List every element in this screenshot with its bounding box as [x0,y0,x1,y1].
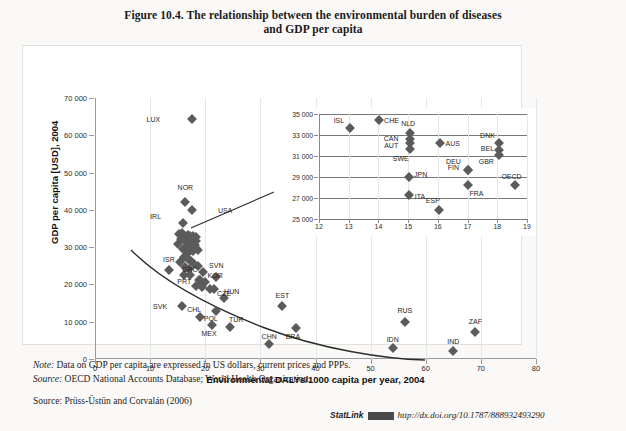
x-tick-label: 50 [366,364,374,373]
inset-data-point [434,205,444,215]
inset-y-tick-label: 25 000 [292,216,313,223]
figure-title-line2: and GDP per capita [263,23,362,35]
inset-data-point-label: JPN [414,171,427,178]
inset-data-point-label: GBR [479,157,494,164]
note-line: Note: Data on GDP per capita are express… [33,360,350,370]
statlink-label: StatLink [330,410,364,420]
inset-data-point [463,165,473,175]
inset-gridline-x [497,114,498,219]
inset-y-axis-line [319,114,320,219]
inset-data-point [404,172,414,182]
inset-y-tick [314,219,318,220]
statlink[interactable]: StatLinkhttp://dx.doi.org/10.1787/888932… [330,410,544,420]
inset-data-point-label: ISL [334,117,345,124]
chart-panel: GDP per capita [USD], 2004 Environmental… [22,45,522,345]
inset-data-point [435,138,445,148]
inset-gridline-x [378,114,379,219]
source-label: Source: [33,374,62,384]
inset-x-tick-label: 19 [523,223,531,230]
inset-data-point [374,115,384,125]
inset-data-point-label: CAN [384,134,399,141]
note-text: Data on GDP per capita are expressed in … [54,360,350,370]
inset-x-tick-label: 17 [464,223,472,230]
inset-y-tick-label: 31 000 [292,153,313,160]
inset-gridline-y [319,114,527,115]
inset-data-point-label: BEL [481,145,494,152]
inset-data-point [510,180,520,190]
inset-data-point-label: ESP [426,197,440,204]
inset-data-point-label: OECD [501,172,521,179]
inset-y-tick-label: 35 000 [292,111,313,118]
x-tick-label: 70 [477,364,485,373]
inset-x-tick-label: 14 [375,223,383,230]
statlink-barcode-icon [368,412,394,420]
gridline-x [536,98,537,359]
inset-x-tick-label: 15 [404,223,412,230]
inset-x-tick-label: 13 [345,223,353,230]
figure-title-line1: Figure 10.4. The relationship between th… [124,9,501,21]
inset-gridline-y [319,135,527,136]
source-text: OECD National Accounts Database; World H… [62,374,310,384]
statlink-url[interactable]: http://dx.doi.org/10.1787/888932493290 [398,410,545,420]
inset-plot-area: 25 00027 00029 00031 00033 00035 000 121… [319,114,527,219]
source2-text: Prüss-Üstün and Corvalán (2006) [62,396,192,406]
inset-y-tick [314,114,318,115]
inset-chart: 25 00027 00029 00031 00033 00035 000 121… [274,108,536,236]
inset-data-point-label: FRA [469,190,483,197]
figure-page: Figure 10.4. The relationship between th… [0,0,626,431]
inset-x-tick-label: 16 [434,223,442,230]
inset-gridline-x [527,114,528,219]
inset-data-point-label: AUT [384,141,398,148]
inset-data-point-label: SWE [393,155,409,162]
inset-data-point-label: CHE [384,117,399,124]
inset-x-tick-label: 18 [493,223,501,230]
x-tick-label: 80 [532,364,540,373]
inset-gridline-y [319,219,527,220]
inset-x-tick-label: 12 [315,223,323,230]
inset-y-tick [314,156,318,157]
inset-data-point-label: ITA [415,193,425,200]
note-label: Note: [33,360,54,370]
inset-data-point [345,123,355,133]
inset-y-tick [314,198,318,199]
inset-y-tick [314,177,318,178]
source2-label: Source: [33,396,62,406]
inset-y-tick-label: 33 000 [292,132,313,139]
inset-data-point-label: AUS [446,139,460,146]
x-tick-label: 60 [422,364,430,373]
inset-data-point [405,144,415,154]
inset-data-point-label: NLD [401,120,415,127]
inset-y-tick [314,135,318,136]
inset-y-tick-label: 29 000 [292,174,313,181]
inset-data-point-label: FIN [448,163,459,170]
inset-y-tick-label: 27 000 [292,195,313,202]
source-line: Source: OECD National Accounts Database;… [33,374,311,384]
inset-data-point-label: DNK [480,132,495,139]
source2-line: Source: Prüss-Üstün and Corvalán (2006) [33,396,192,406]
page-title: Figure 10.4. The relationship between th… [63,8,563,36]
